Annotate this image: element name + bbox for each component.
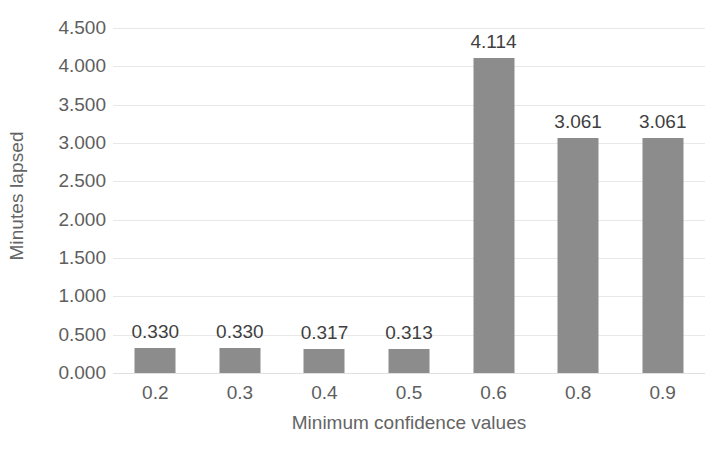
bar-group: 0.313 (367, 0, 452, 373)
x-axis-title: Minimum confidence values (113, 412, 705, 434)
bar[interactable] (219, 348, 260, 373)
y-axis-tick-label: 4.000 (58, 55, 106, 77)
bar-group: 4.114 (451, 0, 536, 373)
y-axis-tick-label: 3.000 (58, 132, 106, 154)
bar-value-label: 0.317 (301, 322, 349, 344)
y-axis-tick-label: 1.500 (58, 247, 106, 269)
x-axis-tick-label: 0.6 (480, 382, 506, 404)
bar-group: 3.061 (536, 0, 621, 373)
y-axis-tick-label: 4.500 (58, 17, 106, 39)
y-axis-tick-label: 0.500 (58, 324, 106, 346)
bar[interactable] (388, 349, 429, 373)
bar-series: 0.3300.3300.3170.3134.1143.0613.061 (113, 0, 705, 392)
x-axis-tick-label: 0.4 (311, 382, 337, 404)
bar[interactable] (558, 138, 599, 373)
y-axis-title: Minutes lapsed (0, 0, 34, 392)
bar-value-label: 0.330 (132, 321, 180, 343)
y-axis-tick-label: 1.000 (58, 285, 106, 307)
x-axis-tick-label: 0.5 (396, 382, 422, 404)
bar-value-label: 4.114 (470, 31, 516, 53)
y-axis-tick-label: 2.000 (58, 209, 106, 231)
x-axis-tick-label: 0.9 (649, 382, 675, 404)
y-axis-tick-label: 3.500 (58, 94, 106, 116)
y-axis-title-text: Minutes lapsed (6, 131, 28, 260)
y-axis-tick-label: 0.000 (58, 362, 106, 384)
bar[interactable] (304, 349, 345, 373)
x-axis-tick-label: 0.8 (565, 382, 591, 404)
bar-value-label: 0.330 (216, 321, 264, 343)
bar-value-label: 3.061 (639, 111, 687, 133)
bar[interactable] (642, 138, 683, 373)
bar-value-label: 0.313 (385, 322, 433, 344)
bar[interactable] (473, 58, 514, 373)
plot-area: 0.3300.3300.3170.3134.1143.0613.061 (113, 0, 705, 392)
x-axis-tick-label: 0.3 (227, 382, 253, 404)
x-axis-tick-label: 0.2 (142, 382, 168, 404)
page-caption-strip (0, 449, 723, 460)
bar-chart: Minutes lapsed 0.0000.5001.0001.5002.000… (0, 0, 723, 460)
y-axis-tick-label: 2.500 (58, 170, 106, 192)
bar-group: 0.330 (198, 0, 283, 373)
bar-value-label: 3.061 (554, 111, 602, 133)
y-axis-ticks: 0.0000.5001.0001.5002.0002.5003.0003.500… (34, 0, 112, 392)
bar-group: 0.317 (282, 0, 367, 373)
bar[interactable] (135, 348, 176, 373)
x-axis-ticks: 0.20.30.40.50.60.80.9 (113, 373, 705, 413)
bar-group: 3.061 (620, 0, 705, 373)
bar-group: 0.330 (113, 0, 198, 373)
